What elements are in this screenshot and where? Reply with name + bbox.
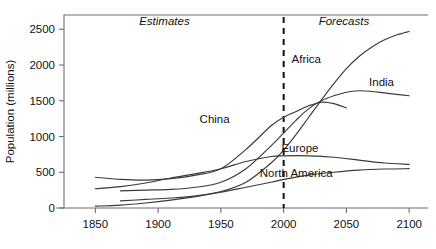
x-axis-tick-label: 1950 bbox=[208, 218, 234, 230]
y-axis-tick-label: 1000 bbox=[29, 131, 55, 143]
annotation-estimates: Estimates bbox=[139, 15, 190, 27]
chart-canvas: 0500100015002000250018501900195020002050… bbox=[0, 0, 436, 249]
series-label-europe: Europe bbox=[281, 142, 318, 154]
series-label-china: China bbox=[200, 113, 231, 125]
y-axis-tick-label: 2500 bbox=[29, 23, 55, 35]
series-line-north-america bbox=[95, 169, 409, 206]
x-axis-tick-label: 1900 bbox=[145, 218, 171, 230]
y-axis-tick-label: 2000 bbox=[29, 59, 55, 71]
annotation-forecasts: Forecasts bbox=[319, 15, 370, 27]
x-axis-tick-label: 2050 bbox=[334, 218, 360, 230]
y-axis-tick-label: 500 bbox=[36, 166, 55, 178]
y-axis-tick-label: 1500 bbox=[29, 95, 55, 107]
series-line-europe bbox=[95, 156, 409, 189]
series-label-north-america: North America bbox=[260, 167, 333, 179]
series-label-africa: Africa bbox=[292, 53, 322, 65]
series-label-india: India bbox=[369, 76, 395, 88]
x-axis-tick-label: 2100 bbox=[396, 218, 422, 230]
y-axis-title: Population (millions) bbox=[4, 60, 16, 164]
y-axis-tick-label: 0 bbox=[49, 202, 55, 214]
x-axis-tick-label: 2000 bbox=[271, 218, 297, 230]
x-axis-tick-label: 1850 bbox=[83, 218, 109, 230]
population-line-chart: 0500100015002000250018501900195020002050… bbox=[0, 0, 436, 249]
